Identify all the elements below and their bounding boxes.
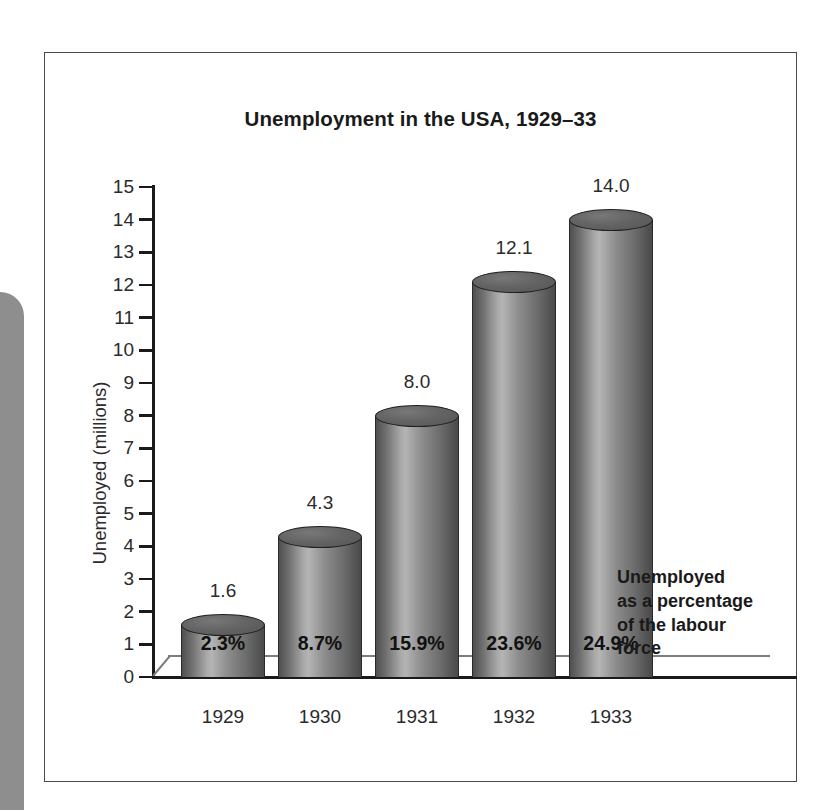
bar-1932: 12.123.6%1932 [472, 0, 556, 677]
bar-percentage-label: 8.7% [278, 632, 362, 655]
y-axis-label: Unemployed (millions) [89, 323, 111, 623]
bar-1929: 1.62.3%1929 [181, 0, 265, 677]
x-axis-tick-label: 1933 [551, 706, 671, 728]
bar-1931: 8.015.9%1931 [375, 0, 459, 677]
y-axis-tick-label: 13 [82, 241, 134, 263]
bar-cylinder-cap [375, 405, 459, 427]
bar-cylinder-body [472, 282, 556, 677]
y-axis-tick [139, 545, 153, 548]
y-axis-tick [139, 382, 153, 385]
bar-1930: 4.38.7%1930 [278, 0, 362, 677]
y-axis-tick-label: 14 [82, 209, 134, 231]
bar-value-label: 1.6 [163, 580, 283, 602]
y-axis-tick [139, 447, 153, 450]
bar-cylinder-cap [472, 271, 556, 293]
y-axis-tick [139, 251, 153, 254]
y-axis-tick [139, 578, 153, 581]
y-axis-tick [139, 610, 153, 613]
annotation-line: Unemployed [617, 566, 782, 590]
chart-plot-area: 1514131211109876543210 Unemployed (milli… [0, 0, 833, 810]
annotation-line: of the labour [617, 614, 782, 638]
y-axis-tick-label: 15 [82, 176, 134, 198]
annotation-line: as a percentage [617, 590, 782, 614]
y-axis-tick [139, 643, 153, 646]
y-axis-tick-label: 1 [82, 633, 134, 655]
y-axis-tick [139, 186, 153, 189]
y-axis-tick-label: 12 [82, 274, 134, 296]
bar-cylinder-cap [569, 209, 653, 231]
y-axis-line [152, 185, 155, 679]
y-axis-tick [139, 284, 153, 287]
bar-percentage-label: 23.6% [472, 632, 556, 655]
y-axis-tick [139, 480, 153, 483]
bar-percentage-label: 2.3% [181, 632, 265, 655]
y-axis-tick [139, 316, 153, 319]
chart-floor-bevel [152, 655, 170, 677]
annotation-line: force [617, 637, 782, 661]
y-axis-tick-label: 0 [82, 666, 134, 688]
bar-value-label: 4.3 [260, 492, 380, 514]
bar-value-label: 14.0 [551, 175, 671, 197]
y-axis-tick [139, 349, 153, 352]
y-axis-tick [139, 414, 153, 417]
y-axis-tick [139, 676, 153, 679]
bar-percentage-label: 15.9% [375, 632, 459, 655]
bar-cylinder-cap [278, 526, 362, 548]
y-axis-tick [139, 512, 153, 515]
bar-value-label: 8.0 [357, 371, 477, 393]
bar-cylinder-body [278, 537, 362, 677]
y-axis-tick [139, 218, 153, 221]
bar-value-label: 12.1 [454, 237, 574, 259]
annotation-unemployment-percentage: Unemployedas a percentageof the labourfo… [617, 566, 782, 661]
